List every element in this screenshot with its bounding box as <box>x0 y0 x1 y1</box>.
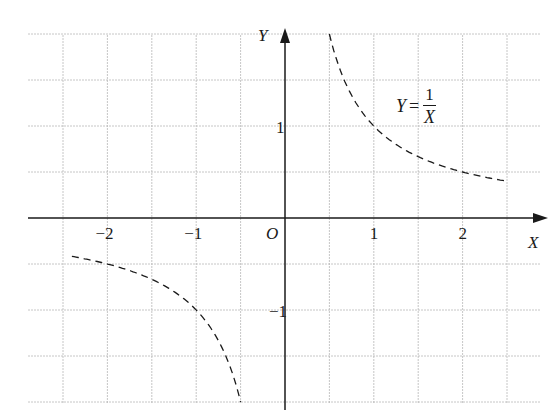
function-equals: = <box>409 96 419 117</box>
x-tick-label: 2 <box>459 225 468 242</box>
y-tick-label: −1 <box>269 303 287 320</box>
y-tick-label: 1 <box>276 119 285 136</box>
x-axis-arrow-icon <box>533 213 548 223</box>
fraction-numerator: 1 <box>423 86 436 106</box>
function-label: Y = 1 X <box>396 86 436 126</box>
x-tick-label: −2 <box>95 225 113 242</box>
x-tick-label: 1 <box>370 225 379 242</box>
function-lhs: Y <box>396 96 406 117</box>
plot-canvas <box>0 0 558 420</box>
fraction: 1 X <box>423 86 436 126</box>
fraction-denominator: X <box>424 106 435 126</box>
x-tick-label: −1 <box>184 225 202 242</box>
y-axis-arrow-icon <box>280 28 290 43</box>
y-axis-label: Y <box>258 27 267 44</box>
origin-label: O <box>266 225 278 242</box>
x-axis-label: X <box>528 234 538 251</box>
axes <box>28 28 548 410</box>
